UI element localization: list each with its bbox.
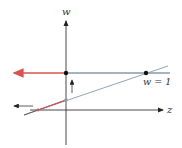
- w-equals-1-label: w = 1: [143, 76, 171, 87]
- diagonal-red-segment: [38, 100, 66, 110]
- z-axis-label: z: [166, 104, 173, 115]
- point-intersection: [144, 71, 148, 75]
- w-axis-label: w: [62, 6, 71, 17]
- point-red: [37, 109, 40, 112]
- point-origin-w1: [64, 71, 68, 75]
- diagram-canvas: w z w = 1: [0, 0, 182, 148]
- point-intercept: [64, 98, 68, 102]
